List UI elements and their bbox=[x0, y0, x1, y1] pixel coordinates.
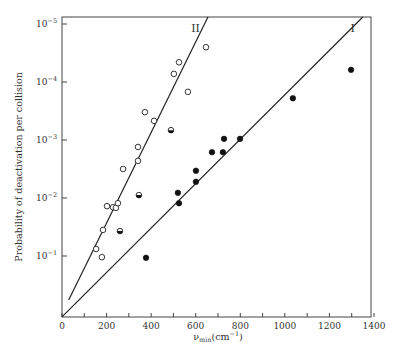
y-tick-exponent: −4 bbox=[47, 75, 57, 83]
open-circle-point bbox=[171, 71, 177, 77]
filled-circle-point bbox=[348, 67, 354, 73]
y-tick-exponent: −1 bbox=[47, 249, 57, 257]
line-labels: III bbox=[191, 22, 355, 35]
x-tick-label: 400 bbox=[143, 321, 160, 331]
open-circle-point bbox=[115, 200, 121, 206]
x-axis-title-unit: (cm bbox=[211, 331, 229, 342]
open-circle-point bbox=[135, 144, 141, 150]
filled-circle-point bbox=[237, 136, 243, 142]
half-filled-circle-point bbox=[136, 192, 142, 198]
open-circle-point bbox=[185, 89, 191, 95]
x-tick-label: 1000 bbox=[273, 321, 296, 331]
y-tick-base: 10 bbox=[36, 251, 48, 261]
x-axis-title-unit-sup: −1 bbox=[229, 330, 239, 338]
filled-circle-point bbox=[176, 200, 182, 206]
y-tick-base: 10 bbox=[36, 19, 48, 29]
half-filled-circle-point bbox=[168, 127, 174, 133]
fit-line-I bbox=[62, 17, 363, 317]
open-circle-point bbox=[120, 166, 126, 172]
x-axis-title-sub: min bbox=[199, 336, 211, 344]
y-tick-exponent: −2 bbox=[47, 191, 57, 199]
x-axis-title: νmin(cm−1) bbox=[193, 330, 243, 344]
y-tick-base: 10 bbox=[36, 135, 48, 145]
y-tick-label: 10−4 bbox=[36, 75, 57, 87]
x-tick-label: 200 bbox=[98, 321, 115, 331]
open-circle-point bbox=[104, 203, 110, 209]
filled-circle-point bbox=[290, 95, 296, 101]
filled-circle-point bbox=[193, 179, 199, 185]
y-tick-label: 10−2 bbox=[36, 191, 57, 203]
filled-circle-point bbox=[143, 255, 149, 261]
y-tick-exponent: −3 bbox=[47, 133, 57, 141]
filled-circle-point bbox=[209, 149, 215, 155]
filled-circle-point bbox=[221, 136, 227, 142]
y-axis-title: Probability of deactivation per collisio… bbox=[13, 72, 24, 262]
fit-lines bbox=[62, 17, 363, 317]
chart: 0200400600800100012001400 10−510−410−310… bbox=[0, 0, 401, 355]
open-circle-point bbox=[99, 254, 105, 260]
half-filled-circle-point bbox=[117, 228, 123, 234]
y-tick-exponent: −5 bbox=[47, 17, 57, 25]
y-tick-label: 10−1 bbox=[36, 249, 57, 261]
y-tick-label: 10−3 bbox=[36, 133, 57, 145]
y-tick-base: 10 bbox=[36, 77, 48, 87]
open-circle-point bbox=[176, 59, 182, 65]
y-tick-label: 10−5 bbox=[36, 17, 57, 29]
x-tick-label: 0 bbox=[59, 321, 65, 331]
open-circle-point bbox=[93, 246, 99, 252]
data-points bbox=[93, 44, 354, 260]
x-axis-title-close: ) bbox=[239, 331, 243, 342]
filled-circle-point bbox=[220, 149, 226, 155]
open-circle-point bbox=[203, 44, 209, 50]
x-tick-label: 1400 bbox=[363, 321, 386, 331]
open-circle-point bbox=[151, 118, 157, 124]
x-tick-label: 1200 bbox=[318, 321, 341, 331]
open-circle-point bbox=[135, 158, 141, 164]
line-label-I: I bbox=[350, 22, 354, 35]
plot-frame bbox=[62, 17, 371, 317]
filled-circle-point bbox=[193, 168, 199, 174]
x-tick-label: 600 bbox=[187, 321, 204, 331]
filled-circle-point bbox=[175, 190, 181, 196]
open-circle-point bbox=[142, 109, 148, 115]
open-circle-point bbox=[100, 227, 106, 233]
y-tick-base: 10 bbox=[36, 193, 48, 203]
line-label-II: II bbox=[191, 22, 200, 35]
x-axis: 0200400600800100012001400 bbox=[59, 313, 386, 331]
